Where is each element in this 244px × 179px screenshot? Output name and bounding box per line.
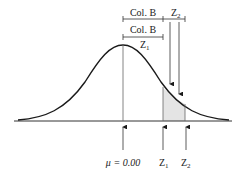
mean-label: μ = 0.00 bbox=[105, 157, 140, 168]
normal-curve-diagram: Col. B Z2 Col. B Z1 μ = 0.00 Z1 Z2 bbox=[0, 0, 244, 179]
second-bracket-z1-label: Z1 bbox=[140, 39, 150, 52]
normal-curve bbox=[18, 45, 229, 120]
second-bracket-label: Col. B bbox=[130, 24, 156, 35]
z2-label: Z2 bbox=[181, 157, 191, 170]
z1-label: Z1 bbox=[159, 157, 169, 170]
top-bracket-label: Col. B bbox=[130, 7, 156, 18]
top-bracket-z2-label: Z2 bbox=[171, 7, 181, 20]
